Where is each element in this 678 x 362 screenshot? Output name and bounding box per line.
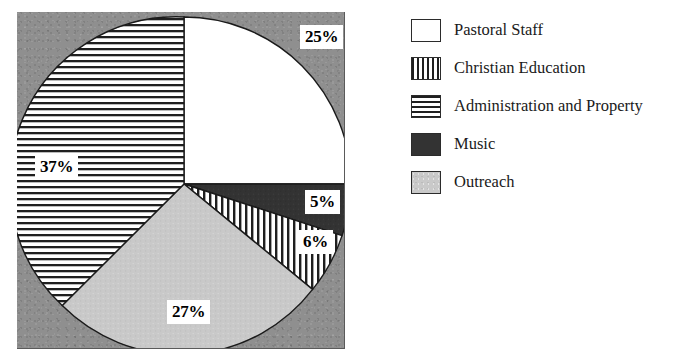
slice-label-music: 5%: [305, 190, 340, 214]
legend-item-music[interactable]: Music: [411, 125, 673, 163]
legend-label-pastoral-staff: Pastoral Staff: [454, 22, 543, 39]
legend-item-christian-education[interactable]: Christian Education: [411, 49, 673, 87]
legend-item-administration-and-property[interactable]: Administration and Property: [411, 87, 673, 125]
legend-swatch-vertical-stripes-icon: [411, 57, 441, 80]
slice-label-pastoral-staff: 25%: [300, 25, 343, 49]
legend-swatch-solid-light-gray-icon: [411, 171, 441, 194]
chart-plot-area: 25% 5% 6% 27% 37%: [17, 12, 345, 349]
legend-item-outreach[interactable]: Outreach: [411, 163, 673, 201]
slice-label-christian-education: 6%: [298, 230, 333, 254]
legend-label-outreach: Outreach: [454, 174, 514, 191]
legend-label-music: Music: [454, 136, 495, 153]
slice-label-administration-and-property: 37%: [35, 155, 78, 179]
legend-swatch-solid-white-icon: [411, 19, 441, 42]
pie-chart: [17, 12, 344, 348]
legend-swatch-horizontal-stripes-icon: [411, 95, 441, 118]
chart-legend: Pastoral Staff Christian Education Admin…: [411, 11, 673, 201]
slice-label-outreach: 27%: [167, 300, 210, 324]
legend-label-christian-education: Christian Education: [454, 60, 586, 77]
legend-label-administration-and-property: Administration and Property: [454, 98, 643, 115]
legend-item-pastoral-staff[interactable]: Pastoral Staff: [411, 11, 673, 49]
legend-swatch-solid-dark-icon: [411, 133, 441, 156]
